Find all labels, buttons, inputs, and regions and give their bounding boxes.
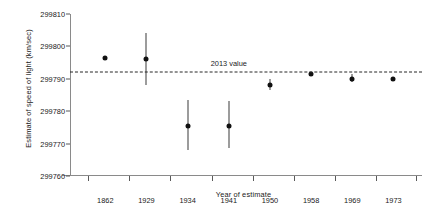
x-tick-mark xyxy=(212,176,213,181)
data-point xyxy=(391,76,396,81)
x-tick-label: 1941 xyxy=(221,196,237,205)
y-tick-label: 299780 xyxy=(40,107,65,116)
x-tick-mark xyxy=(416,176,417,181)
x-tick-mark xyxy=(376,176,377,181)
data-point xyxy=(350,76,355,81)
x-tick-label: 1862 xyxy=(97,196,113,205)
y-tick-label: 299800 xyxy=(40,42,65,51)
data-point xyxy=(267,83,272,88)
y-tick-mark xyxy=(66,46,70,47)
y-tick-mark xyxy=(66,176,70,177)
reference-line-label: 2013 value xyxy=(211,59,247,68)
x-tick-label: 1969 xyxy=(344,196,360,205)
x-tick-mark xyxy=(294,176,295,181)
x-tick-mark xyxy=(253,176,254,181)
y-axis-line xyxy=(70,14,71,176)
y-tick-mark xyxy=(66,78,70,79)
y-tick-label: 299770 xyxy=(40,139,65,148)
x-axis-title: Year of estimate xyxy=(60,190,427,199)
y-tick-label: 299760 xyxy=(40,172,65,181)
x-tick-mark xyxy=(170,176,171,181)
speed-of-light-chart: Estimate of speed of light (km/sec) Year… xyxy=(0,0,427,211)
x-tick-label: 1973 xyxy=(385,196,401,205)
y-tick-label: 299790 xyxy=(40,74,65,83)
data-point xyxy=(185,123,190,128)
plot-area: 299810299800299790299780299770299760 186… xyxy=(70,14,422,176)
x-tick-label: 1934 xyxy=(179,196,195,205)
data-point xyxy=(103,55,108,60)
x-tick-label: 1958 xyxy=(303,196,319,205)
y-axis-title: Estimate of speed of light (km/sec) xyxy=(24,9,33,169)
x-tick-mark xyxy=(335,176,336,181)
y-tick-mark xyxy=(66,111,70,112)
data-point xyxy=(144,57,149,62)
reference-line-2013 xyxy=(70,72,422,73)
x-axis-line xyxy=(62,175,422,176)
x-tick-label: 1929 xyxy=(138,196,154,205)
x-tick-label: 1950 xyxy=(262,196,278,205)
y-tick-label: 299810 xyxy=(40,10,65,19)
y-tick-mark xyxy=(66,14,70,15)
x-tick-mark xyxy=(88,176,89,181)
y-tick-mark xyxy=(66,143,70,144)
data-point xyxy=(226,123,231,128)
x-tick-mark xyxy=(129,176,130,181)
